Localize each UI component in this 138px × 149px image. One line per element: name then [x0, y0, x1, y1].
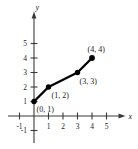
point-label-1-2: (1, 2): [52, 91, 70, 100]
y-tick-label: 1: [23, 97, 27, 106]
y-tick-label: 5: [23, 39, 27, 48]
coordinate-plot-figure: y x 5 4 3 2 1 -1 -1: [0, 0, 138, 149]
point-labels-group: (0, 1) (1, 2) (3, 3) (4, 4): [37, 45, 106, 114]
x-axis-arrow-icon: [119, 114, 126, 119]
y-axis-ticks: 5 4 3 2 1 -1: [21, 39, 38, 135]
x-tick-label: -1: [16, 122, 22, 131]
data-point-marker: [31, 99, 36, 104]
data-point-marker: [89, 55, 95, 61]
y-tick-label: 4: [23, 54, 27, 63]
x-axis-label: x: [128, 112, 133, 121]
point-label-4-4: (4, 4): [88, 45, 106, 54]
y-axis-label: y: [35, 3, 40, 12]
point-label-3-3: (3, 3): [80, 77, 98, 86]
y-axis-arrow-icon: [32, 12, 37, 19]
plot-svg: y x 5 4 3 2 1 -1 -1: [0, 0, 138, 149]
x-tick-label: 2: [61, 122, 65, 131]
x-tick-label: 1: [47, 122, 51, 131]
y-tick-label: 3: [23, 68, 27, 77]
point-label-0-1: (0, 1): [37, 105, 55, 114]
x-tick-label: 3: [76, 122, 80, 131]
x-tick-label: 4: [90, 122, 94, 131]
x-axis-ticks: -1 1 2 3 4 5: [16, 113, 108, 131]
data-point-marker: [46, 84, 51, 89]
data-point-marker: [75, 70, 80, 75]
y-tick-label: 2: [23, 83, 27, 92]
x-tick-label: 5: [105, 122, 109, 131]
